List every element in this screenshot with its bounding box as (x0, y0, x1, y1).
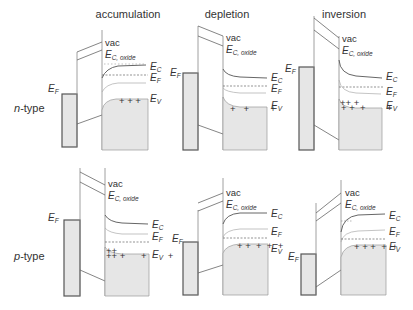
intrinsic-level (223, 88, 266, 93)
valence-band-fill (223, 244, 268, 295)
oxide-cb-line (198, 36, 223, 46)
panel-n-accumulation: EF vac EC, oxide + + + EC EF EV (48, 30, 162, 150)
conduction-band (223, 69, 267, 78)
holes: + + + (119, 95, 141, 106)
vacuum-level-line (316, 193, 341, 213)
oxide-vb-line (80, 270, 105, 281)
ev-label: EV (386, 100, 398, 112)
metal-block (62, 94, 77, 147)
conduction-band (105, 215, 148, 224)
oxide-cb-line (316, 203, 341, 221)
valence-band-fill (102, 99, 148, 150)
panel-p-accumulation: EF vac EC, oxide ++ ++ + + + EC EF EV (48, 168, 174, 296)
conduction-band (341, 214, 385, 232)
ec-oxide-label: EC, oxide (342, 45, 373, 57)
ev-label: EV (271, 100, 283, 112)
vac-label: vac (342, 33, 357, 44)
oxide-cb-line (314, 30, 339, 49)
metal-fermi-label: EF (48, 83, 60, 95)
metal-block (299, 67, 314, 150)
vac-label: vac (345, 187, 360, 198)
row-label-p-type: p-type (13, 250, 45, 262)
oxide-vb-line (314, 125, 339, 140)
holes: + + + (230, 103, 276, 114)
vacuum-level-line (198, 193, 223, 203)
panel-n-inversion: EF vac EC, oxide ++ + + + + + EC EF EV (285, 16, 398, 150)
ec-label: EC (386, 71, 398, 83)
vacuum-level-line (80, 172, 105, 185)
metal-block (64, 220, 80, 296)
column-header-inversion: inversion (322, 8, 366, 20)
ef-label: EF (389, 226, 401, 238)
ec-oxide-label: EC, oxide (226, 199, 257, 211)
oxide-vb-line (198, 125, 223, 134)
column-header-depletion: depletion (205, 8, 250, 20)
ef-label: EF (152, 231, 164, 243)
oxide-cb-line (77, 50, 102, 60)
ev-label: EV (389, 241, 401, 253)
row-label-n-type: n-type (14, 102, 45, 114)
panel-p-depletion: EF vac EC, oxide + + + + + EC EF EV (172, 178, 284, 295)
ec-oxide-label: EC, oxide (108, 190, 139, 202)
metal-block (183, 73, 198, 150)
intrinsic-level (105, 228, 148, 234)
ef-label: EF (271, 83, 283, 95)
vacuum-level-line (77, 42, 102, 52)
ef-label: EF (150, 72, 162, 84)
vacuum-level-line (198, 26, 223, 36)
holes: + + + + (341, 102, 393, 113)
metal-block (301, 254, 316, 295)
ec-label: EC (389, 210, 401, 222)
ec-oxide-label: EC, oxide (345, 199, 376, 211)
conduction-band (339, 60, 382, 78)
vac-label: vac (226, 187, 241, 198)
oxide-cb-line (198, 201, 223, 211)
panel-p-inversion: EF vac EC, oxide + + + + + EC EF EV (288, 180, 401, 295)
ev-label: EV (150, 93, 162, 105)
oxide-vb-line (316, 270, 341, 287)
column-header-accumulation: accumulation (96, 8, 161, 20)
conduction-band (102, 65, 146, 78)
vac-label: vac (226, 32, 241, 43)
valence-band-fill (341, 245, 386, 295)
metal-fermi-label: EF (170, 67, 182, 79)
metal-block (183, 242, 198, 295)
vacuum-level-line (314, 18, 339, 38)
oxide-vb-line (198, 265, 223, 273)
metal-fermi-label: EF (48, 212, 60, 224)
ec-oxide-label: EC, oxide (226, 44, 257, 56)
holes: ++ + + + (106, 250, 174, 261)
oxide-vb-line (77, 115, 102, 124)
ef-label: EF (271, 226, 283, 238)
vac-label: vac (105, 37, 120, 48)
ec-oxide-label: EC, oxide (105, 49, 136, 61)
panel-n-depletion: EF vac EC, oxide + + + EC EF EV (170, 26, 283, 150)
ec-label: EC (152, 219, 164, 231)
mos-band-diagram: accumulation depletion inversion n-type … (0, 0, 413, 310)
metal-fermi-label: EF (172, 233, 184, 245)
metal-fermi-label: EF (285, 63, 297, 75)
intrinsic-level (102, 83, 146, 92)
ef-label: EF (386, 86, 398, 98)
metal-fermi-label: EF (288, 251, 300, 263)
conduction-band (223, 213, 267, 224)
vac-label: vac (108, 178, 123, 189)
intrinsic-level (223, 229, 268, 237)
ec-label: EC (271, 208, 283, 220)
oxide-cb-line (80, 182, 105, 195)
